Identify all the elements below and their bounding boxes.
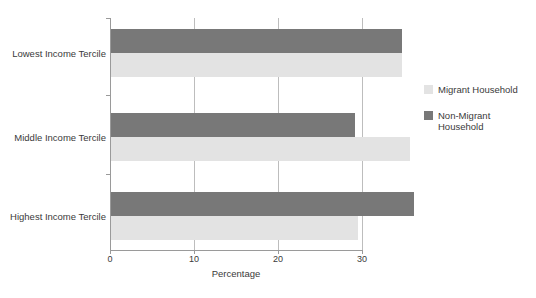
bar-chart: Lowest Income TercileMiddle Income Terci… [0, 0, 536, 298]
y-axis-line [110, 18, 111, 250]
y-axis-category-labels: Lowest Income TercileMiddle Income Terci… [0, 0, 106, 298]
y-tick-mark [106, 18, 110, 19]
chart-legend: Migrant HouseholdNon-Migrant Household [424, 84, 534, 147]
legend-item: Non-Migrant Household [424, 110, 534, 133]
x-tick-label: 0 [107, 254, 112, 264]
y-axis-label: Lowest Income Tercile [2, 48, 106, 59]
legend-item: Migrant Household [424, 84, 534, 96]
legend-swatch-icon [424, 111, 433, 120]
bar [110, 137, 410, 161]
x-tick-label: 30 [357, 254, 367, 264]
bar [110, 113, 355, 137]
y-axis-label: Highest Income Tercile [2, 211, 106, 222]
y-tick-mark [106, 95, 110, 96]
bar [110, 53, 402, 77]
legend-label: Non-Migrant Household [438, 110, 534, 133]
bar [110, 216, 358, 240]
y-tick-mark [106, 174, 110, 175]
legend-swatch-icon [424, 85, 433, 94]
bar [110, 29, 402, 53]
x-axis-title: Percentage [110, 268, 362, 279]
plot-area [110, 18, 362, 250]
bar [110, 192, 414, 216]
x-tick-label: 20 [273, 254, 283, 264]
y-axis-label: Middle Income Tercile [2, 132, 106, 143]
x-tick-label: 10 [189, 254, 199, 264]
x-axis-line [110, 250, 363, 251]
legend-label: Migrant Household [438, 84, 518, 96]
